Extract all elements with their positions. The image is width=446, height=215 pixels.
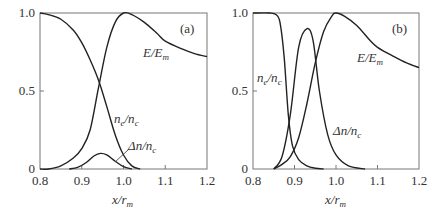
panel-a: 0.80.91.01.11.200.51.0 (a) E/Em ne/nc Δn… [19,5,215,209]
x-tick-label: 1.1 [369,173,385,188]
y-tick-label: 0.5 [232,83,248,98]
label-e-over-em-b: E/Em [356,50,384,67]
curves-b [253,13,419,169]
x-axis-label-b: x/rm [324,192,346,209]
plot-frame-a [40,13,207,169]
panel-b: 0.80.91.01.11.200.51.0 (b) E/Em ne/nc Δn… [232,5,427,209]
figure: 0.80.91.01.11.200.51.0 (a) E/Em ne/nc Δn… [0,0,446,215]
x-tick-label: 1.1 [157,173,173,188]
label-dn-over-nc-b: Δn/nc [332,123,361,140]
x-tick-label: 1.2 [199,173,215,188]
x-tick-label: 1.2 [411,173,427,188]
y-tick-label: 0 [242,161,249,176]
panel-tag-b: (b) [392,21,407,36]
label-ne-over-nc-b: ne/nc [257,70,282,87]
x-tick-label: 0.9 [286,173,302,188]
x-tick-label: 1.0 [328,173,344,188]
curve-eem [274,13,419,169]
curve-nenc [40,13,140,169]
y-tick-label: 0.5 [19,83,35,98]
y-tick-label: 0 [29,161,36,176]
panel-tag-a: (a) [180,21,194,36]
curve-nenc [253,13,324,169]
y-tick-label: 1.0 [19,5,35,20]
y-tick-label: 1.0 [232,5,248,20]
plot-frame-b [253,13,419,169]
label-ne-over-nc-a: ne/nc [114,111,139,128]
x-tick-label: 1.0 [115,173,131,188]
label-e-over-em-a: E/Em [142,45,170,62]
label-dn-over-nc-a: Δn/nc [127,138,156,155]
x-axis-label-a: x/rm [111,192,133,209]
x-tick-label: 0.9 [74,173,90,188]
curve-nnc [69,153,132,169]
